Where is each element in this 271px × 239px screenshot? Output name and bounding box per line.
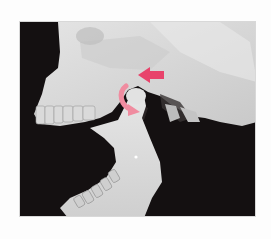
page (0, 0, 271, 239)
skull-photo (19, 21, 256, 217)
skull-illustration (20, 22, 256, 217)
